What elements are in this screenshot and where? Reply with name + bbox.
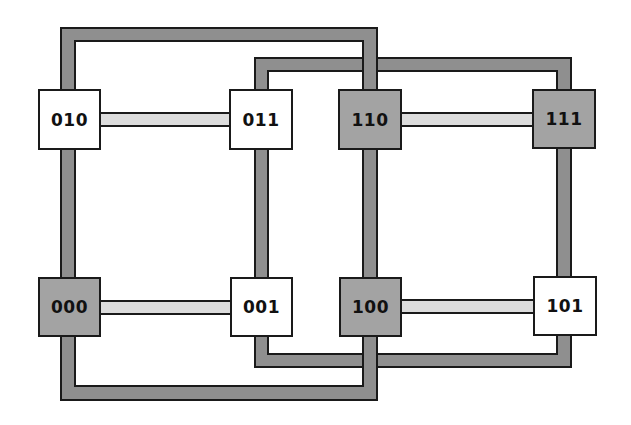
loop-link-0x1-to-1x1 <box>255 58 571 367</box>
node-101: 101 <box>533 276 597 336</box>
horizontal-links <box>100 113 534 314</box>
node-label: 100 <box>352 297 389 317</box>
node-001: 001 <box>230 277 293 337</box>
node-010: 010 <box>38 89 101 150</box>
node-label: 101 <box>547 296 584 316</box>
node-label: 111 <box>546 109 583 129</box>
node-100: 100 <box>339 277 402 337</box>
node-000: 000 <box>38 277 101 337</box>
node-label: 110 <box>352 110 389 130</box>
link-000-001 <box>100 301 231 314</box>
node-label: 001 <box>243 297 280 317</box>
node-110: 110 <box>338 89 402 150</box>
hypercube-diagram: 010 011 110 111 000 001 100 101 <box>0 0 631 425</box>
node-label: 011 <box>243 110 280 130</box>
node-011: 011 <box>229 89 293 150</box>
node-label: 000 <box>51 297 88 317</box>
link-010-011 <box>100 113 230 126</box>
link-110-111 <box>401 113 533 126</box>
link-layer <box>0 0 631 425</box>
link-100-101 <box>401 300 534 313</box>
loop-link-0x0-to-1x0 <box>61 28 377 400</box>
node-label: 010 <box>51 110 88 130</box>
node-111: 111 <box>532 89 596 149</box>
